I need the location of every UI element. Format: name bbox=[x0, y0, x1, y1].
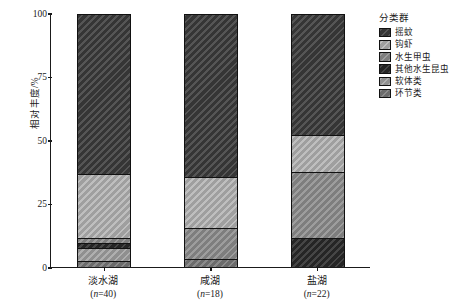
stacked-bar[interactable] bbox=[77, 14, 131, 267]
legend-item-label: 摇蚊 bbox=[395, 28, 413, 37]
stacked-bar[interactable] bbox=[291, 14, 345, 267]
x-axis-group-name: 盐湖 bbox=[262, 274, 372, 288]
bar-column-2[interactable] bbox=[184, 14, 238, 267]
legend: 分类群 摇蚊钩虾水生甲虫其他水生昆虫软体类环节类 bbox=[379, 10, 457, 100]
bar-segment-2-6[interactable] bbox=[185, 260, 237, 267]
legend-swatch-icon bbox=[379, 40, 391, 50]
legend-item-6[interactable]: 环节类 bbox=[379, 87, 457, 99]
x-axis-sample-size: (n=18) bbox=[155, 288, 265, 302]
legend-item-5[interactable]: 软体类 bbox=[379, 75, 457, 87]
legend-items: 摇蚊钩虾水生甲虫其他水生昆虫软体类环节类 bbox=[379, 27, 457, 100]
legend-item-label: 环节类 bbox=[395, 89, 422, 98]
legend-swatch-icon bbox=[379, 89, 391, 99]
bar-segment-1-2[interactable] bbox=[78, 175, 130, 240]
legend-title: 分类群 bbox=[379, 10, 457, 24]
bar-segment-2-2[interactable] bbox=[185, 178, 237, 230]
x-axis-group-name: 淡水湖 bbox=[48, 274, 158, 288]
legend-item-label: 水生甲虫 bbox=[395, 53, 431, 62]
bar-segment-1-1[interactable] bbox=[78, 15, 130, 175]
legend-swatch-icon bbox=[379, 28, 391, 38]
y-tick-mark-25 bbox=[48, 204, 52, 205]
y-tick-label-25: 25 bbox=[25, 200, 47, 210]
legend-item-label: 其他水生昆虫 bbox=[395, 65, 448, 74]
bar-segment-1-5[interactable] bbox=[78, 249, 130, 262]
bar-segment-3-3[interactable] bbox=[292, 173, 344, 240]
y-tick-mark-50 bbox=[48, 140, 52, 141]
y-tick-label-50: 50 bbox=[25, 137, 47, 147]
legend-item-label: 钩虾 bbox=[395, 40, 413, 49]
legend-swatch-icon bbox=[379, 77, 391, 87]
x-tick-mark-1 bbox=[104, 267, 105, 271]
legend-swatch-icon bbox=[379, 52, 391, 62]
bar-segment-3-2[interactable] bbox=[292, 136, 344, 173]
legend-item-label: 软体类 bbox=[395, 77, 422, 86]
x-tick-mark-3 bbox=[317, 267, 318, 271]
legend-item-4[interactable]: 其他水生昆虫 bbox=[379, 63, 457, 75]
y-tick-mark-100 bbox=[48, 13, 52, 14]
plot-area: 0255075100 bbox=[50, 14, 370, 268]
stacked-bar-chart-figure: 相对丰度/% 0255075100 淡水湖(n=40)咸湖(n=18)盐湖(n=… bbox=[0, 0, 458, 308]
legend-item-3[interactable]: 水生甲虫 bbox=[379, 51, 457, 63]
x-axis-sample-size: (n=40) bbox=[48, 288, 158, 302]
bar-column-3[interactable] bbox=[291, 14, 345, 267]
stacked-bar[interactable] bbox=[184, 14, 238, 267]
x-axis-label-2: 咸湖(n=18) bbox=[155, 274, 265, 301]
bar-segment-2-1[interactable] bbox=[185, 15, 237, 178]
x-axis-label-3: 盐湖(n=22) bbox=[262, 274, 372, 301]
y-tick-mark-75 bbox=[48, 77, 52, 78]
bar-segment-2-3[interactable] bbox=[185, 229, 237, 260]
y-tick-mark-0 bbox=[48, 267, 52, 268]
y-tick-label-75: 75 bbox=[25, 73, 47, 83]
bar-segment-3-4[interactable] bbox=[292, 239, 344, 267]
legend-item-2[interactable]: 钩虾 bbox=[379, 39, 457, 51]
x-tick-mark-2 bbox=[210, 267, 211, 271]
x-axis-group-name: 咸湖 bbox=[155, 274, 265, 288]
x-axis-sample-size: (n=22) bbox=[262, 288, 372, 302]
y-tick-label-100: 100 bbox=[25, 10, 47, 20]
x-axis-label-1: 淡水湖(n=40) bbox=[48, 274, 158, 301]
legend-swatch-icon bbox=[379, 64, 391, 74]
y-tick-label-0: 0 bbox=[25, 264, 47, 274]
legend-item-1[interactable]: 摇蚊 bbox=[379, 27, 457, 39]
bar-column-1[interactable] bbox=[77, 14, 131, 267]
bar-segment-3-1[interactable] bbox=[292, 15, 344, 136]
